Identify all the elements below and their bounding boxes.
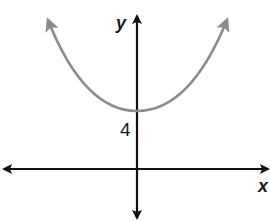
x-axis-label: x	[258, 176, 268, 197]
y-intercept-label: 4	[120, 119, 131, 141]
y-axis-label: y	[116, 13, 126, 34]
graph-canvas	[0, 0, 270, 221]
